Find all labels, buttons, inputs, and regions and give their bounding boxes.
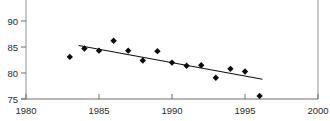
data-point-marker: [256, 93, 262, 99]
plot-frame: [21, 0, 318, 99]
x-tick-label-1990: 1990: [161, 105, 182, 116]
data-point-marker: [154, 48, 160, 54]
data-point-marker: [125, 47, 131, 53]
y-tick-label-85: 85: [7, 42, 18, 53]
y-axis-tick-labels: 75 80 85 90: [7, 16, 18, 105]
x-tick-label-1980: 1980: [15, 105, 36, 116]
y-tick-label-75: 75: [7, 94, 18, 105]
data-point-marker: [140, 57, 146, 63]
data-point-marker: [227, 66, 233, 72]
y-tick-label-80: 80: [7, 68, 18, 79]
data-point-marker: [183, 63, 189, 69]
data-point-marker: [67, 54, 73, 60]
y-axis-ticks: [21, 21, 26, 99]
y-tick-label-90: 90: [7, 16, 18, 27]
x-tick-label-1985: 1985: [88, 105, 109, 116]
data-point-marker: [169, 59, 175, 65]
data-point-marker: [213, 74, 219, 80]
x-tick-label-1995: 1995: [234, 105, 255, 116]
scatter-chart: 75 80 85 90 1980 1985 1990 1995 2000: [0, 0, 330, 121]
x-axis-ticks: [26, 94, 318, 99]
data-points: [67, 38, 263, 100]
x-tick-label-2000: 2000: [307, 105, 328, 116]
data-point-marker: [110, 38, 116, 44]
data-point-marker: [242, 68, 248, 74]
x-axis-tick-labels: 1980 1985 1990 1995 2000: [15, 105, 328, 116]
chart-canvas: 75 80 85 90 1980 1985 1990 1995 2000: [0, 0, 330, 121]
